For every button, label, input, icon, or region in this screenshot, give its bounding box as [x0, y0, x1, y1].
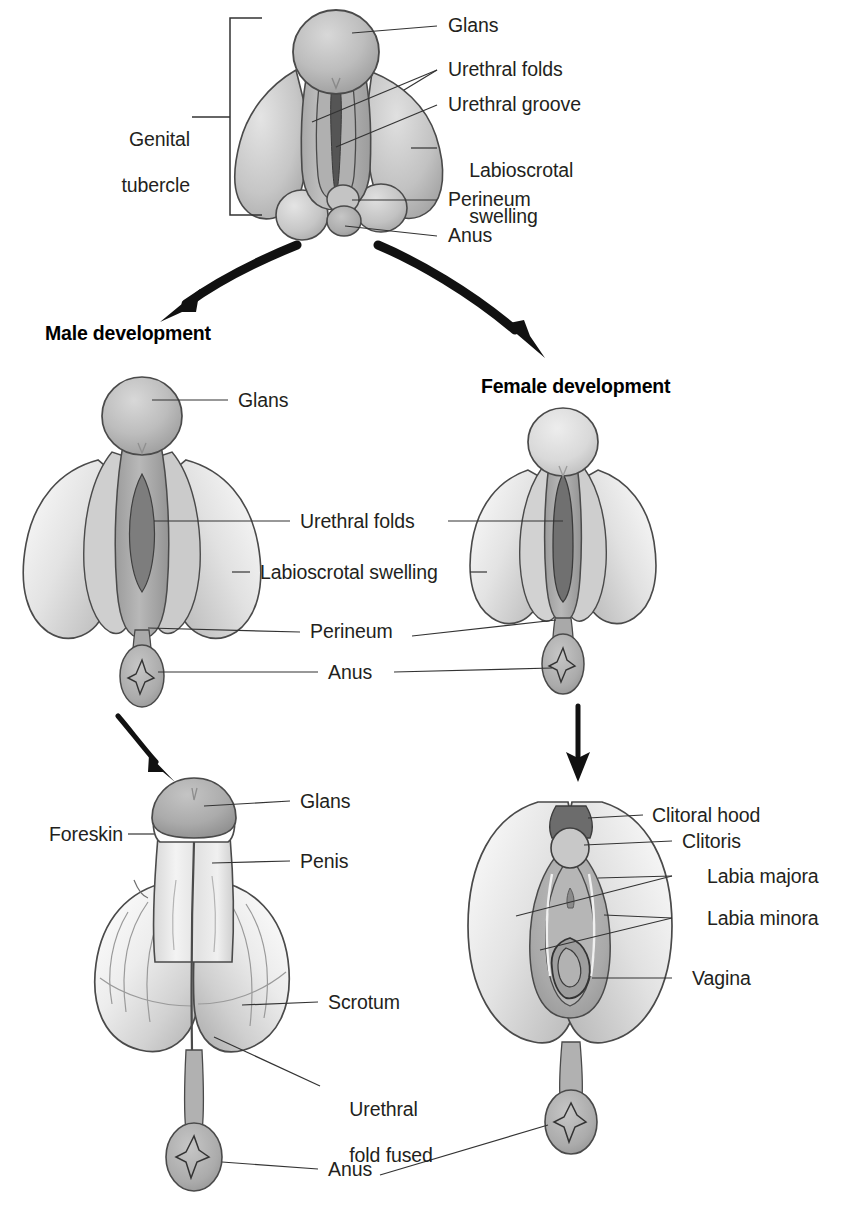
label-urethral-groove-indifferent: Urethral groove [448, 93, 581, 116]
label-glans-indifferent: Glans [448, 14, 498, 37]
label-genital-tubercle: Genital tubercle [62, 105, 190, 220]
label-glans-male-mature: Glans [300, 790, 350, 813]
genital-development-diagram: Genital tubercle Glans Urethral folds Ur… [0, 0, 841, 1206]
label-labia-minora-female-mature: Labia minora [707, 907, 819, 930]
label-urethral-folds-differentiating: Urethral folds [300, 510, 415, 533]
label-clitoris-female-mature: Clitoris [682, 830, 741, 853]
label-urethral-folds-indifferent: Urethral folds [448, 58, 563, 81]
label-scrotum-male-mature: Scrotum [328, 991, 400, 1014]
heading-male-development: Male development [45, 322, 211, 345]
label-foreskin-male-mature: Foreskin [18, 823, 123, 846]
label-genital-tubercle-line2: tubercle [121, 174, 190, 196]
figure-indifferent-stage [192, 10, 443, 240]
label-labioscrotal-swelling-line1: Labioscrotal [469, 159, 573, 181]
label-labia-majora-female-mature: Labia majora [707, 865, 819, 888]
label-anus-differentiating: Anus [328, 661, 372, 684]
label-clitoral-hood-female-mature: Clitoral hood [652, 804, 760, 827]
figure-male-differentiating [23, 377, 318, 707]
label-perineum-differentiating: Perineum [310, 620, 393, 643]
label-genital-tubercle-line1: Genital [129, 128, 190, 150]
maturation-arrows [118, 706, 590, 782]
label-labioscrotal-swelling-differentiating: Labioscrotal swelling [260, 561, 438, 584]
figure-male-mature [95, 778, 320, 1191]
label-anus-male-mature: Anus [328, 1158, 372, 1181]
branch-arrows [160, 245, 545, 358]
figure-female-differentiating [394, 408, 656, 694]
label-glans-differentiating: Glans [238, 389, 288, 412]
label-vagina-female-mature: Vagina [692, 967, 751, 990]
label-urethral-fold-fused-line1: Urethral [349, 1098, 418, 1120]
label-perineum-indifferent: Perineum [448, 188, 531, 211]
label-anus-indifferent: Anus [448, 224, 492, 247]
label-penis-male-mature: Penis [300, 850, 348, 873]
heading-female-development: Female development [481, 375, 670, 398]
